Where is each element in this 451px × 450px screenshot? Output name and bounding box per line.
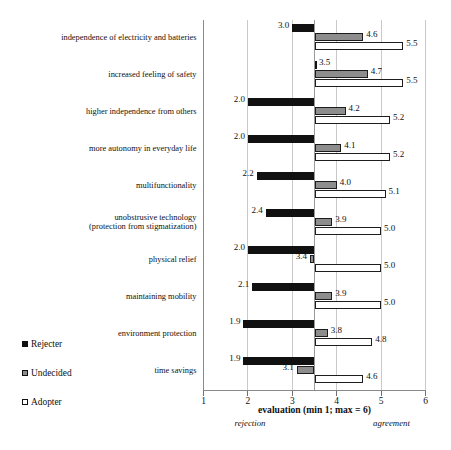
legend-label: Undecided: [31, 368, 72, 378]
axis-endnote-rejection: rejection: [235, 418, 266, 428]
figure-chart: independence of electricity and batterie…: [0, 0, 451, 450]
bar-rejecter: [315, 61, 317, 69]
bar-value-label: 3.9: [335, 288, 346, 298]
bar-value-label: 5.5: [406, 38, 417, 48]
bar-value-label: 5.0: [384, 297, 395, 307]
bar-undecided: [315, 329, 328, 337]
bar-value-label: 1.9: [221, 353, 240, 363]
bar-adopter: [315, 190, 386, 198]
bar-value-label: 3.4: [288, 251, 307, 261]
bar-value-label: 2.0: [226, 131, 245, 141]
bar-value-label: 4.2: [349, 103, 360, 113]
category-label: increased feeling of safety: [8, 70, 197, 80]
bar-adopter: [315, 227, 382, 235]
bar-rejecter: [257, 172, 315, 180]
legend-swatch-icon: [22, 341, 28, 347]
bar-value-label: 4.6: [366, 29, 377, 39]
category-label: higher independence from others: [8, 107, 197, 117]
axis-left-line: [203, 20, 204, 390]
bar-adopter: [315, 116, 390, 124]
bar-rejecter: [248, 98, 315, 106]
category-label: multifunctionality: [8, 181, 197, 191]
gridline-6: [425, 20, 426, 390]
bar-value-label: 3.1: [275, 362, 294, 372]
bar-undecided: [315, 218, 333, 226]
figure-caption: [30, 437, 422, 449]
legend-label: Adopter: [31, 397, 62, 407]
bar-value-label: 3.8: [331, 325, 342, 335]
bar-adopter: [315, 338, 373, 346]
bar-value-label: 2.4: [244, 205, 263, 215]
bar-undecided: [315, 181, 337, 189]
category-label: physical relief: [8, 255, 197, 265]
bar-value-label: 3.0: [270, 20, 289, 30]
bar-adopter: [315, 375, 364, 383]
category-label: maintaining mobility: [8, 292, 197, 302]
bar-value-label: 5.2: [393, 149, 404, 159]
bar-value-label: 5.5: [406, 75, 417, 85]
bar-rejecter: [248, 135, 315, 143]
category-label: unobstrusive technology (protection from…: [8, 213, 197, 232]
bar-value-label: 4.6: [366, 371, 377, 381]
bar-value-label: 4.0: [340, 177, 351, 187]
bar-adopter: [315, 301, 382, 309]
bar-value-label: 5.0: [384, 223, 395, 233]
bar-value-label: 5.2: [393, 112, 404, 122]
category-label: independence of electricity and batterie…: [8, 33, 197, 43]
bar-value-label: 4.1: [344, 140, 355, 150]
legend-swatch-icon: [22, 399, 28, 405]
bar-undecided: [315, 70, 368, 78]
axis-bottom-line: [203, 390, 426, 391]
bar-adopter: [315, 42, 404, 50]
legend-item-rejecter[interactable]: Rejecter: [22, 338, 62, 349]
bar-value-label: 4.8: [375, 334, 386, 344]
bar-value-label: 1.9: [221, 316, 240, 326]
legend-item-adopter[interactable]: Adopter: [22, 396, 62, 407]
bar-rejecter: [252, 283, 314, 291]
bar-undecided: [315, 107, 346, 115]
bar-adopter: [315, 79, 404, 87]
x-axis-title: evaluation (min 1; max = 6): [204, 404, 426, 415]
bar-value-label: 2.2: [235, 168, 254, 178]
legend-item-undecided[interactable]: Undecided: [22, 367, 72, 378]
bar-undecided: [315, 292, 333, 300]
bar-value-label: 2.0: [226, 94, 245, 104]
category-label: more autonomy in everyday life: [8, 144, 197, 154]
bar-value-label: 3.5: [319, 57, 330, 67]
bar-value-label: 3.9: [335, 214, 346, 224]
bar-value-label: 5.1: [389, 186, 400, 196]
bar-value-label: 2.1: [230, 279, 249, 289]
legend-swatch-icon: [22, 370, 28, 376]
category-label: environment protection: [8, 329, 197, 339]
gridline-3: [292, 20, 293, 390]
bar-adopter: [315, 264, 382, 272]
bar-rejecter: [292, 24, 314, 32]
axis-endnote-agreement: agreement: [373, 418, 410, 428]
bar-rejecter: [243, 320, 314, 328]
bar-undecided: [315, 33, 364, 41]
bar-rejecter: [266, 209, 315, 217]
bar-adopter: [315, 153, 390, 161]
bar-value-label: 4.7: [371, 66, 382, 76]
bar-value-label: 5.0: [384, 260, 395, 270]
legend-label: Rejecter: [31, 339, 62, 349]
bar-undecided: [315, 144, 342, 152]
bar-undecided: [297, 366, 315, 374]
bar-undecided: [310, 255, 314, 263]
bar-value-label: 2.0: [226, 242, 245, 252]
